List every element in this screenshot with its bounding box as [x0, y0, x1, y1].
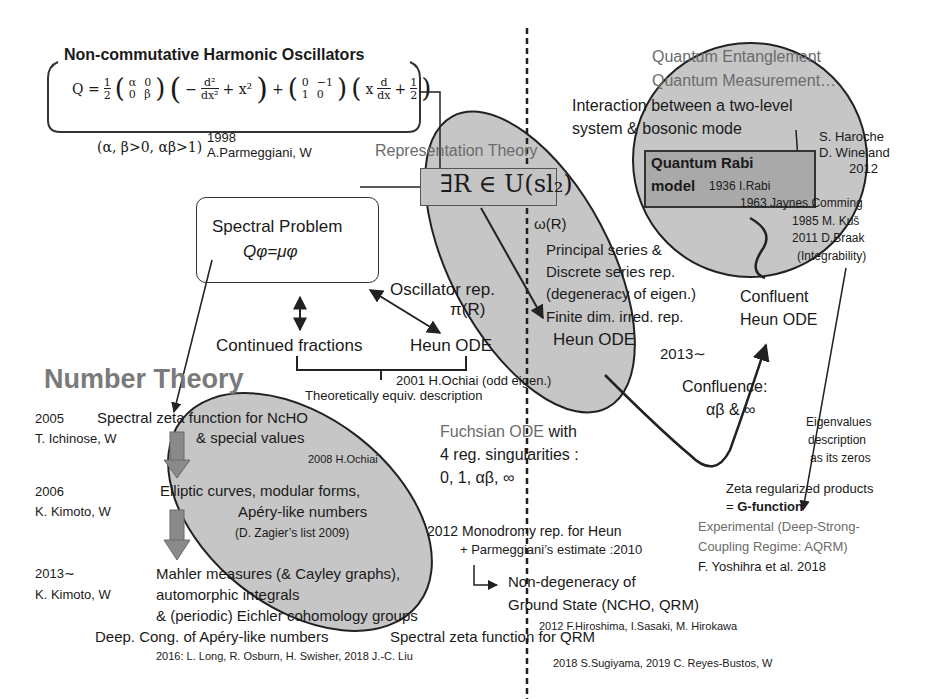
omega-r: ω(R) [534, 215, 567, 232]
nt-authors-2013: K. Kimoto, W [35, 588, 111, 603]
term2-plus: + [395, 81, 407, 97]
elliptic-line-2: Apéry-like numbers [238, 503, 367, 520]
ncho-year: 1998 [207, 131, 236, 146]
interaction-line-2: system & bosonic mode [572, 120, 742, 138]
rep-item-degeneracy: (degeneracy of eigen.) [546, 285, 696, 302]
zeta-products: Zeta regularized products [726, 482, 873, 497]
history-integrability: (Integrability) [797, 250, 866, 264]
m1-d: β [144, 89, 151, 101]
paren-open-2: ( [169, 72, 181, 107]
paren-open-4: ( [351, 74, 361, 104]
diagram-canvas: Non-commutative Harmonic Oscillators Q =… [0, 0, 926, 699]
fuchsian-title: Fuchsian ODE with [440, 423, 577, 441]
term2-half-num: 1 [410, 77, 417, 88]
number-theory-heading: Number Theory [44, 364, 244, 395]
confluent-line-2: Heun ODE [740, 311, 817, 329]
fuchsian-points: 0, 1, αβ, ∞ [440, 469, 514, 487]
history-jaynes: 1963 Jaynes Comming [740, 197, 863, 211]
quantum-measurement: Quantum Measurement… [652, 72, 836, 90]
zeta-line-1: Spectral zeta function for NcHO [97, 409, 308, 426]
nt-authors-2005: T. Ichinose, W [35, 432, 117, 447]
quantum-entanglement: Quantum Entanglement [652, 48, 821, 66]
term1-den: dx² [201, 88, 219, 101]
ncho-conditions: (α, β>0, αβ>1) [97, 139, 202, 155]
term2-fraction: d dx [377, 77, 390, 101]
paren-close: ) [155, 74, 165, 104]
term2-half-den: 2 [410, 88, 417, 101]
nobel-wineland: D. Wineland [819, 146, 890, 161]
fuchsian-singularities: 4 reg. singularities : [440, 446, 579, 464]
term2-den: dx [377, 88, 390, 101]
confluence-line-1: Confluence: [682, 378, 767, 396]
interaction-line-1: Interaction between a two-level [572, 97, 793, 115]
monodromy-line: 2012 Monodromy rep. for Heun [427, 523, 622, 539]
representation-element: ∃R ∈ U(sl₂) [440, 171, 573, 199]
zagier-list: (D. Zagier’s list 2009) [235, 527, 349, 541]
zeta-line-2: & special values [196, 429, 304, 446]
history-braak: 2011 D.Braak [792, 232, 865, 246]
term2-num: d [380, 77, 387, 88]
experimental-line-1: Experimental (Deep-Strong- [698, 520, 860, 535]
ochiai-2008: 2008 H.Ochiai [308, 453, 378, 466]
rabi-1936: 1936 I.Rabi [709, 180, 770, 194]
g-function: G-function [737, 499, 803, 514]
nt-year-2006: 2006 [35, 485, 64, 500]
term1-fraction: d² dx² [201, 77, 219, 101]
term1-num: d² [204, 77, 215, 88]
experimental-line-3: F. Yoshihra et al. 2018 [698, 560, 826, 575]
mahler-line-1: Mahler measures (& Cayley graphs), [156, 565, 400, 582]
matrix-1: α0 0β [129, 77, 151, 101]
paren-open: ( [115, 74, 125, 104]
ncho-formula: Q = 1 2 ( α0 0β ) ( − d² dx² + x² ) + ( … [72, 72, 431, 107]
parmeggiani-estimate: + Parmeggiani’s estimate :2010 [460, 543, 642, 558]
elliptic-line-1: Elliptic curves, modular forms, [160, 482, 360, 499]
term1-minus: − [185, 81, 197, 97]
ncho-title: Non-commutative Harmonic Oscillators [64, 46, 365, 64]
eigen-line-2: description [808, 434, 866, 448]
arrow-non-degeneracy [474, 565, 497, 585]
rep-item-principal: Principal series & [546, 241, 662, 258]
spectral-equation: Qφ=μφ [243, 242, 298, 262]
nt-year-2013: 2013∼ [35, 567, 75, 582]
mahler-line-2: automorphic integrals [156, 586, 299, 603]
fuchsian-title-black: with [544, 423, 577, 440]
g-function-prefix: = [726, 499, 737, 514]
rep-heun-ode: Heun ODE [553, 330, 635, 350]
nt-authors-2006: K. Kimoto, W [35, 505, 111, 520]
m2-c: 1 [302, 89, 309, 101]
half-den: 2 [104, 88, 111, 101]
history-kus: 1985 M. Kuš [792, 215, 859, 229]
eigen-line-3: as its zeros [810, 452, 871, 466]
pi-r: π(R) [450, 300, 485, 320]
spectral-title: Spectral Problem [212, 217, 342, 237]
rabi-title-1: Quantum Rabi [651, 154, 754, 171]
g-function-line: = G-function [726, 500, 803, 515]
ochiai-2001: 2001 H.Ochiai (odd eigen.) [396, 374, 551, 389]
formula-plus: + [272, 81, 284, 97]
confluent-line-1: Confluent [740, 288, 809, 306]
paren-close-3: ) [337, 74, 347, 104]
spectral-problem-box [196, 197, 379, 283]
nobel-haroche: S. Haroche [819, 130, 884, 145]
paren-open-3: ( [288, 74, 298, 104]
half-num: 1 [104, 77, 111, 88]
sugiyama-refs: 2018 S.Sugiyama, 2019 C. Reyes-Bustos, W [553, 657, 773, 670]
formula-q: Q = [72, 81, 100, 97]
experimental-line-2: Coupling Regime: AQRM) [698, 540, 848, 555]
continued-fractions: Continued fractions [216, 336, 362, 356]
rabi-title-2: model [651, 177, 695, 194]
m1-c: 0 [129, 89, 136, 101]
term1-tail: + x² [223, 81, 253, 97]
non-degeneracy-2: Ground State (NCHO, QRM) [508, 596, 699, 613]
fuchsian-title-gray: Fuchsian ODE [440, 423, 544, 440]
eigen-line-1: Eigenvalues [806, 416, 871, 430]
heun-ode: Heun ODE [410, 336, 492, 356]
rep-item-discrete: Discrete series rep. [546, 263, 675, 280]
zeta-qrm: Spectral zeta function for QRM [390, 628, 595, 645]
ncho-authors: A.Parmeggiani, W [207, 146, 312, 161]
nt-year-2005: 2005 [35, 412, 64, 427]
nobel-year: 2012 [849, 162, 878, 177]
paren-close-2: ) [256, 72, 268, 107]
oscillator-rep: Oscillator rep. [390, 280, 495, 300]
matrix-2: 0−1 10 [302, 77, 333, 101]
